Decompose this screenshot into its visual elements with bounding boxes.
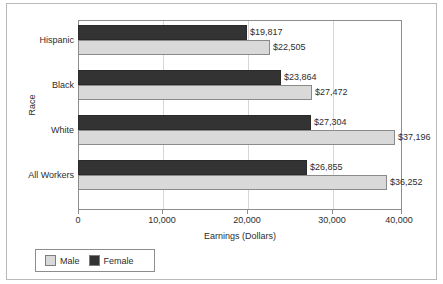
chart-screenshot: $19,817 $22,505 $23,864 $27,472 $27,304 … <box>0 0 443 284</box>
bars-layer: $19,817 $22,505 $23,864 $27,472 $27,304 … <box>78 20 402 210</box>
y-axis-title: Race <box>27 75 37 135</box>
category-labels: Hispanic Black White All Workers <box>7 20 74 210</box>
value-label-white-male: $37,196 <box>398 130 431 145</box>
x-tick-40000 <box>401 210 402 214</box>
bar-hispanic-female[interactable] <box>78 25 247 40</box>
bar-allworkers-male[interactable] <box>78 175 387 190</box>
legend-item-male[interactable]: Male <box>45 255 80 266</box>
value-label-hispanic-male: $22,505 <box>273 40 306 55</box>
x-axis-title: Earnings (Dollars) <box>78 231 402 241</box>
value-label-white-female: $27,304 <box>314 115 347 130</box>
legend-label-female: Female <box>104 256 134 266</box>
category-label-black: Black <box>52 80 74 90</box>
x-tick-0 <box>78 210 79 214</box>
female-swatch-icon <box>89 255 100 266</box>
legend: Male Female <box>35 249 155 272</box>
x-tick-label-0: 0 <box>75 215 80 225</box>
bar-white-male[interactable] <box>78 130 395 145</box>
bar-white-female[interactable] <box>78 115 311 130</box>
x-tick-20000 <box>247 210 248 214</box>
male-swatch-icon <box>45 255 56 266</box>
bar-hispanic-male[interactable] <box>78 40 270 55</box>
legend-item-female[interactable]: Female <box>89 255 134 266</box>
value-label-black-male: $27,472 <box>315 85 348 100</box>
value-label-allworkers-male: $36,252 <box>390 175 423 190</box>
x-tick-label-30000: 30,000 <box>318 215 346 225</box>
bar-black-female[interactable] <box>78 70 281 85</box>
legend-label-male: Male <box>60 256 80 266</box>
value-label-hispanic-female: $19,817 <box>250 25 283 40</box>
bar-black-male[interactable] <box>78 85 312 100</box>
x-tick-10000 <box>162 210 163 214</box>
category-label-hispanic: Hispanic <box>39 35 74 45</box>
bar-allworkers-female[interactable] <box>78 160 307 175</box>
figure-frame: $19,817 $22,505 $23,864 $27,472 $27,304 … <box>6 3 437 280</box>
value-label-allworkers-female: $26,855 <box>310 160 343 175</box>
category-label-white: White <box>51 125 74 135</box>
category-label-all-workers: All Workers <box>28 170 74 180</box>
value-label-black-female: $23,864 <box>284 70 317 85</box>
x-tick-label-10000: 10,000 <box>148 215 176 225</box>
x-tick-label-40000: 40,000 <box>385 215 413 225</box>
x-tick-label-20000: 20,000 <box>233 215 261 225</box>
x-tick-30000 <box>332 210 333 214</box>
